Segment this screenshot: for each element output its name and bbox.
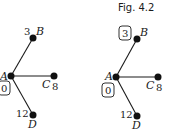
- graph-left: A 0 3 B C 8 12 D: [0, 25, 58, 131]
- value-c: 8: [156, 82, 162, 93]
- node-a: [113, 74, 120, 81]
- label-a: A: [104, 70, 113, 83]
- label-d: D: [27, 118, 37, 131]
- value-a: 0: [1, 83, 7, 94]
- label-c: C: [146, 79, 155, 92]
- figure-caption: Fig. 4.2: [118, 2, 154, 13]
- value-d: 12: [120, 109, 133, 120]
- node-a: [8, 73, 15, 80]
- node-c: [51, 73, 58, 80]
- figure: Fig. 4.2 A 0 3 B C 8 12 D A 0 3 B C 8: [0, 0, 178, 133]
- label-c: C: [42, 78, 51, 91]
- label-b: B: [139, 26, 148, 39]
- edge-a-b: [116, 39, 137, 77]
- edge-a-b: [11, 38, 33, 76]
- graph-right: A 0 3 B C 8 12 D: [102, 26, 162, 132]
- label-b: B: [35, 25, 44, 38]
- value-c: 8: [52, 81, 58, 92]
- label-d: D: [131, 119, 141, 132]
- value-a: 0: [105, 85, 111, 96]
- value-b: 3: [122, 28, 128, 39]
- node-c: [155, 74, 162, 81]
- value-d: 12: [16, 108, 29, 119]
- value-b: 3: [24, 26, 30, 37]
